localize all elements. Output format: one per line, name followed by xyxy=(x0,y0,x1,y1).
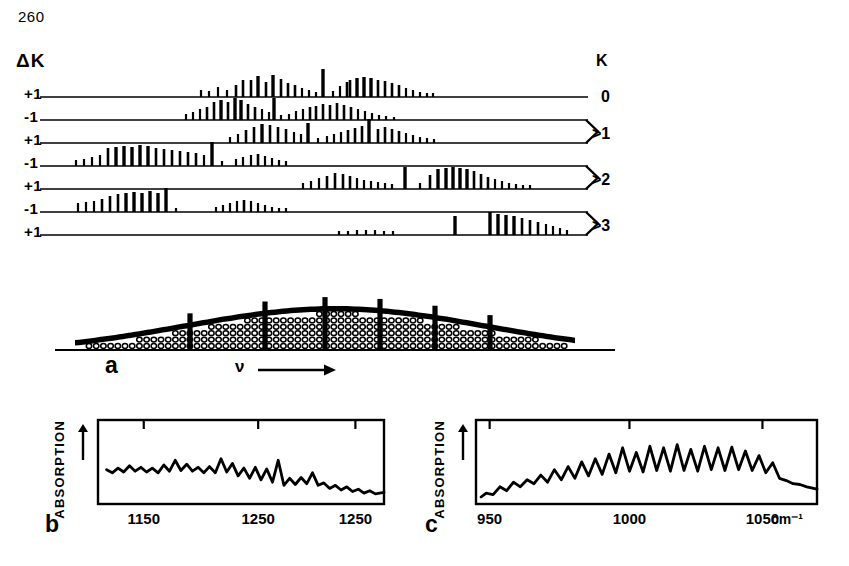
envelope-subband-tick xyxy=(322,297,327,350)
k-brace-connector xyxy=(586,212,598,235)
stick-trace xyxy=(40,69,588,97)
panel-c-spectrum: 95010001050cm⁻¹ xyxy=(466,416,821,526)
panel-b-y-axis-text: ABSORPTION xyxy=(52,420,67,519)
axis-tick-label: 1150 xyxy=(127,510,160,526)
stick-trace xyxy=(40,167,588,189)
envelope-subband-tick xyxy=(262,302,267,350)
stick-trace xyxy=(40,119,588,143)
envelope-subband-tick xyxy=(187,313,192,350)
stick-spectra-panel xyxy=(0,0,849,260)
envelope-subband-tick xyxy=(432,306,437,350)
axis-tick-label: 1250 xyxy=(339,510,372,526)
band-envelope xyxy=(55,292,615,372)
panel-label-c: c xyxy=(425,511,438,538)
k-brace-connector xyxy=(586,166,598,189)
stick-trace xyxy=(40,142,588,166)
stick-trace xyxy=(40,188,588,212)
panel-b-spectrum: 115012501250 xyxy=(88,416,388,526)
x-axis-unit-label: cm⁻¹ xyxy=(771,511,803,526)
envelope-subband-tick xyxy=(377,299,382,350)
k-brace-connector xyxy=(586,120,598,143)
panel-c-y-axis-label: ABSORPTION xyxy=(432,420,447,522)
spectrum-curve xyxy=(107,459,384,494)
spectrum-curve xyxy=(481,445,817,497)
axis-tick-label: 1000 xyxy=(613,510,646,526)
figure-root: 260 ΔK K +1 -1 +1 -1 +1 -1 +1 0 >1 >2 >3… xyxy=(0,0,849,566)
panel-c-y-axis-text: ABSORPTION xyxy=(432,420,447,519)
envelope-subband-tick xyxy=(487,315,492,350)
stick-trace xyxy=(40,212,588,235)
nu-axis-label: ν xyxy=(235,357,244,377)
stick-trace xyxy=(40,98,588,120)
nu-arrow-icon xyxy=(258,362,338,378)
axis-tick-label: 1250 xyxy=(241,510,274,526)
axis-tick-label: 950 xyxy=(477,510,502,526)
panel-label-a: a xyxy=(105,352,118,379)
panel-b-y-axis-label: ABSORPTION xyxy=(52,420,67,522)
panel-label-b: b xyxy=(45,511,59,538)
